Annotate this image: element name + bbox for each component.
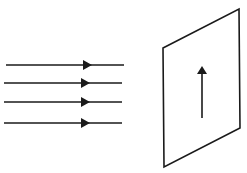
diagram: [0, 0, 247, 173]
field-line-arrowhead-icon: [81, 118, 90, 128]
arrow-up-icon: [197, 66, 207, 74]
field-line-arrowhead-icon: [81, 97, 90, 107]
field-line-arrowhead-icon: [81, 78, 90, 88]
field-line-arrowhead-icon: [83, 60, 92, 70]
